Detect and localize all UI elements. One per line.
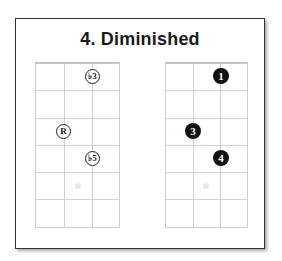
- fret-line: [166, 118, 247, 119]
- fret-inlay: [203, 183, 209, 189]
- finger-1-marker: 1: [213, 68, 229, 84]
- fret-line: [36, 90, 119, 91]
- interval-fretboard: ♭3 R ♭5: [35, 62, 120, 228]
- finger-4-marker: 4: [213, 150, 229, 166]
- fret-inlay: [75, 183, 81, 189]
- fret-line: [36, 145, 119, 146]
- fret-line: [166, 90, 247, 91]
- root-marker: R: [56, 124, 71, 139]
- fingering-fretboard: 1 3 4: [165, 62, 248, 228]
- fret-line: [166, 199, 247, 200]
- chord-title: 4. Diminished: [16, 29, 264, 50]
- fret-line: [36, 118, 119, 119]
- fret-line: [166, 145, 247, 146]
- flat-third-marker: ♭3: [85, 69, 100, 84]
- fret-line: [36, 199, 119, 200]
- fret-line: [166, 172, 247, 173]
- fret-line: [36, 172, 119, 173]
- finger-3-marker: 3: [185, 123, 201, 139]
- flat-fifth-marker: ♭5: [85, 151, 100, 166]
